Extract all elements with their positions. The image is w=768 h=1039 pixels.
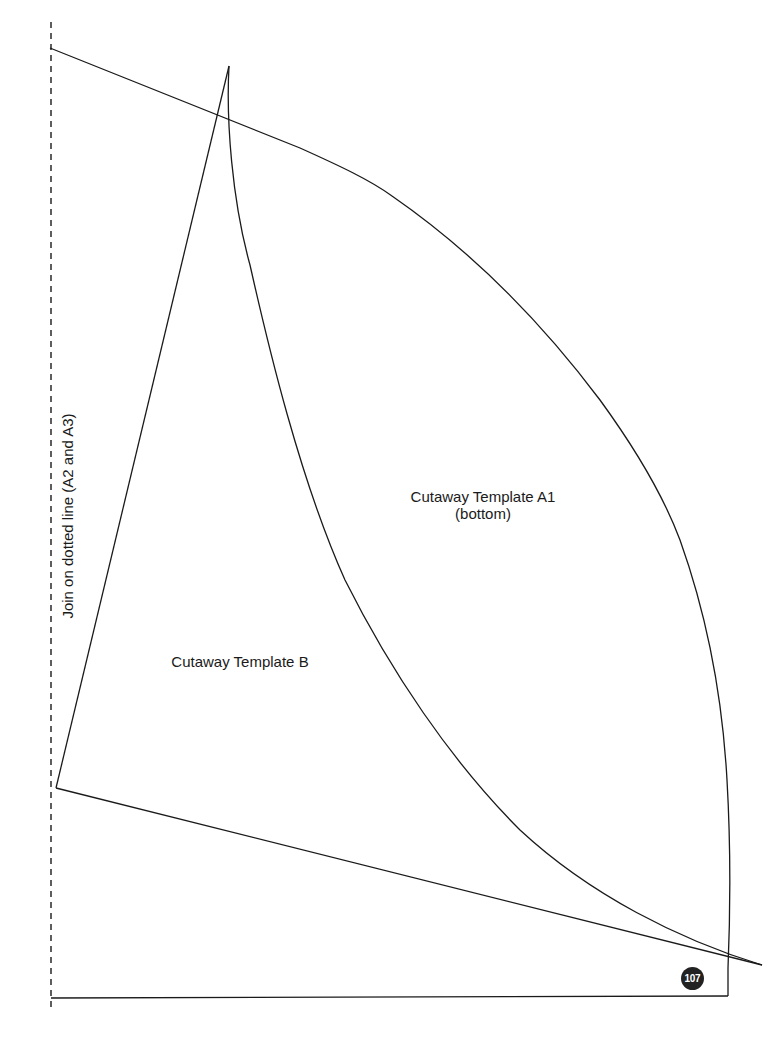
template-a1-subtitle: (bottom)	[388, 505, 578, 522]
template-b-left-edge	[56, 66, 229, 788]
template-a1-label: Cutaway Template A1 (bottom)	[388, 488, 578, 522]
join-instruction-label: Join on dotted line (A2 and A3)	[59, 413, 76, 618]
template-a1-outer-edge	[50, 48, 730, 996]
template-a1-bottom-edge	[51, 996, 728, 998]
page-number-badge: 107	[681, 967, 704, 990]
template-b-label: Cutaway Template B	[150, 653, 330, 670]
template-a1-title: Cutaway Template A1	[388, 488, 578, 505]
template-outline-drawing	[0, 0, 768, 1039]
template-b-bottom-edge	[56, 788, 762, 965]
